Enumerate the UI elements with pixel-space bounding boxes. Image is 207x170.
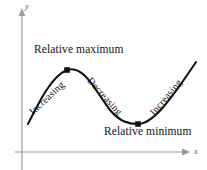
- y-axis-label: y: [25, 2, 29, 11]
- relative-maximum-point: [64, 67, 70, 73]
- figure-container: Relative maximum Relative minimum Increa…: [0, 0, 207, 170]
- relative-minimum-label: Relative minimum: [104, 126, 192, 138]
- relative-maximum-label: Relative maximum: [34, 44, 123, 56]
- x-axis-label: x: [194, 147, 198, 156]
- x-axis-arrowhead: [182, 149, 190, 156]
